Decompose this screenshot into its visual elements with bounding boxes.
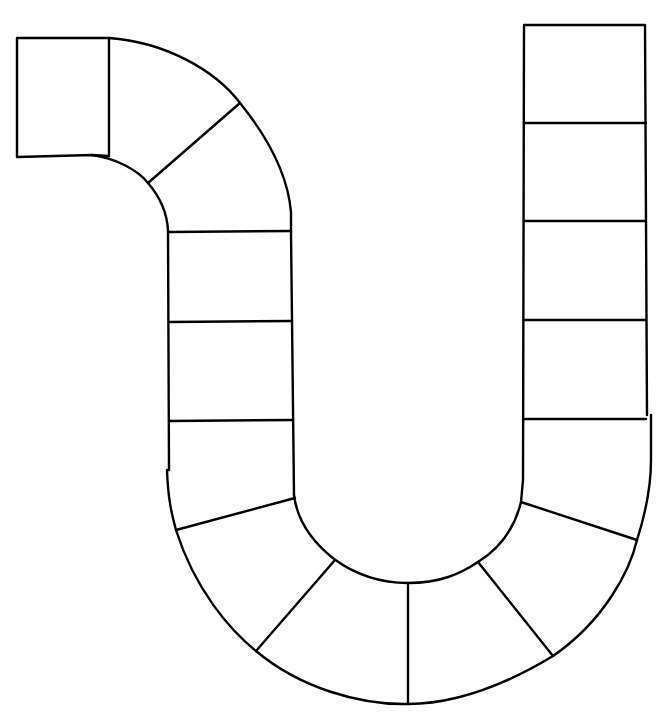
left-column-right-edge bbox=[291, 232, 294, 495]
upper-curve-outer bbox=[109, 38, 291, 232]
track-outline bbox=[17, 25, 651, 704]
space-1-start bbox=[17, 38, 109, 157]
right-column-edges bbox=[523, 25, 647, 480]
space-dividers bbox=[148, 103, 646, 704]
left-column-left-edge bbox=[168, 230, 169, 470]
game-board bbox=[0, 0, 664, 724]
board-path-diagram bbox=[0, 0, 664, 724]
upper-curve-inner bbox=[92, 155, 168, 230]
